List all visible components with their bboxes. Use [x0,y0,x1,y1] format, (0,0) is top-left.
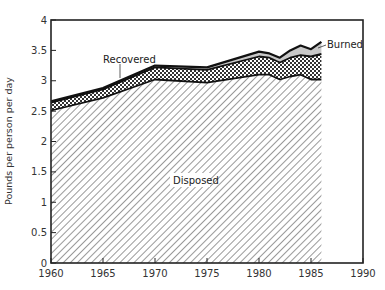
y-tick-label: 3.5 [31,45,47,56]
y-tick-label: 3 [41,75,47,86]
burned-label: Burned [327,39,363,50]
x-tick-label: 1990 [350,268,375,279]
y-tick-label: 1 [41,197,47,208]
y-tick-label: 4 [41,15,47,26]
x-tick-label: 1965 [90,268,115,279]
recovered-label: Recovered [103,54,156,65]
x-tick-label: 1975 [194,268,219,279]
disposed-label: Disposed [173,175,219,186]
y-tick-label: 0.5 [31,227,47,238]
x-tick-label: 1970 [142,268,167,279]
area-disposed [51,75,321,263]
y-tick-label: 0 [41,258,47,269]
y-tick-label: 1.5 [31,166,47,177]
y-tick-label: 2 [41,136,47,147]
y-axis-title: Pounds per person per day [3,77,14,205]
y-tick-label: 2.5 [31,106,47,117]
x-tick-label: 1985 [298,268,323,279]
plot-areas [51,42,321,263]
x-tick-label: 1960 [38,268,63,279]
x-tick-label: 1980 [246,268,271,279]
stacked-area-chart: 00.511.522.533.54 1960196519701975198019… [0,0,385,290]
